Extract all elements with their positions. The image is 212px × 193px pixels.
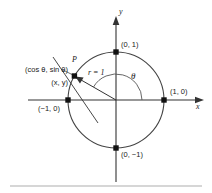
y-axis-label: y [119,8,123,16]
radius-label: r = 1 [88,69,105,77]
point-1-0-label: (1, 0) [170,88,188,96]
point-neg1-0-marker [65,97,70,102]
angle-theta-label: θ [131,72,135,81]
point-0-1-marker [113,49,118,54]
point-0-neg1-marker [113,145,118,150]
point-neg1-0-label: (−1, 0) [38,105,60,113]
unit-circle-graphic [0,0,212,193]
point-p-trig-coords-label: (cos θ, sin θ) [25,66,68,74]
unit-circle-figure: (cos θ, sin θ) (x, y) P r = 1 θ (0, 1) (… [0,0,212,193]
point-p-label: P [72,56,77,64]
point-0-1-label: (0, 1) [121,41,139,49]
x-axis-label: x [196,103,200,111]
radius-segment [75,77,116,100]
point-p-xy-coords-label: (x, y) [51,79,68,87]
point-P-marker [72,73,77,78]
point-1-0-marker [161,97,166,102]
point-0-neg1-label: (0, −1) [121,151,143,159]
